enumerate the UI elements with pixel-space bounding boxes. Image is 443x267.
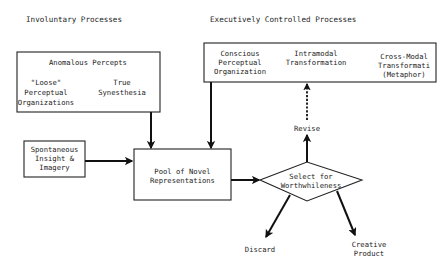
true-synesthesia-line2: Synesthesia	[98, 88, 146, 97]
true-synesthesia-line1: True	[113, 78, 130, 87]
discard-label: Discard	[245, 245, 275, 254]
creative-product-line1: Creative	[352, 240, 387, 249]
intramodal-line1: Intramodal	[294, 49, 337, 58]
anomalous-percepts-title: Anomalous Percepts	[49, 58, 127, 67]
revise-label: Revise	[294, 124, 320, 133]
arrow-select-to-discard	[266, 195, 290, 237]
creative-product-line2: Product	[354, 249, 384, 258]
loose-label-line1: "Loose"	[31, 78, 61, 87]
loose-label-line2: Perceptual	[24, 88, 67, 97]
header-executive-processes: Executively Controlled Processes	[210, 15, 356, 24]
conscious-line1: Conscious	[221, 49, 260, 58]
loose-label-line3: Organizations	[18, 98, 74, 107]
conscious-line2: Perceptual	[218, 58, 261, 67]
select-worthwhileness-diamond: Select for Worthwhileness	[260, 162, 362, 201]
pool-line1: Pool of Novel	[154, 167, 210, 176]
header-involuntary-processes: Involuntary Processes	[26, 15, 122, 24]
crossmodal-line2: Transformati	[378, 61, 430, 70]
pool-of-novel-representations-box: Pool of Novel Representations	[134, 149, 231, 200]
pool-line2: Representations	[150, 176, 215, 185]
creativity-flow-diagram: Involuntary Processes Executively Contro…	[0, 0, 443, 267]
executive-processes-box: Conscious Perceptual Organization Intram…	[204, 43, 436, 82]
spontaneous-line2: Insight &	[35, 154, 75, 163]
intramodal-line2: Transformation	[286, 58, 347, 67]
spontaneous-line3: Imagery	[39, 163, 70, 172]
spontaneous-line1: Spontaneous	[31, 145, 79, 154]
select-line1: Select for	[289, 172, 333, 181]
anomalous-percepts-box: Anomalous Percepts "Loose" Perceptual Or…	[17, 52, 160, 112]
select-line2: Worthwhileness	[281, 181, 342, 190]
conscious-line3: Organization	[214, 67, 266, 76]
arrow-select-to-creative	[337, 191, 355, 235]
spontaneous-insight-box: Spontaneous Insight & Imagery	[24, 141, 85, 177]
crossmodal-line3: (Metaphor)	[382, 70, 425, 79]
crossmodal-line1: Cross-Modal	[380, 52, 428, 61]
